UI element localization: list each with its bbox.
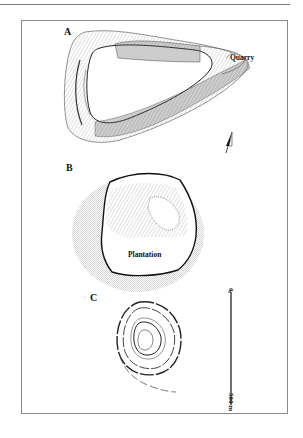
panel-label-b: B [66,162,73,173]
scale-end-label: 500 m [227,393,235,411]
panel-a-plan [64,31,250,153]
figure-drawings [0,0,303,438]
north-arrow-icon [226,132,232,153]
quarry-label: Quarry [230,53,254,62]
panel-c-plan [117,302,181,392]
panel-b-plan [72,174,204,293]
scale-bar [228,292,231,405]
plantation-label: Plantation [128,250,161,259]
panel-label-c: C [90,292,97,303]
scale-start-label: 0 [227,288,235,292]
panel-label-a: A [64,26,71,37]
